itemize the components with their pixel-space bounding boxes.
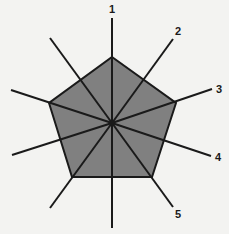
radar-svg: 1 2 3 4 5 bbox=[0, 0, 229, 234]
center-hub bbox=[110, 121, 115, 126]
axis-label-4: 4 bbox=[215, 151, 222, 163]
axis-label-5: 5 bbox=[175, 208, 181, 220]
axis-label-3: 3 bbox=[216, 83, 222, 95]
axis-label-2: 2 bbox=[175, 25, 181, 37]
radar-diagram: 1 2 3 4 5 bbox=[0, 0, 229, 234]
axis-label-1: 1 bbox=[109, 3, 115, 15]
